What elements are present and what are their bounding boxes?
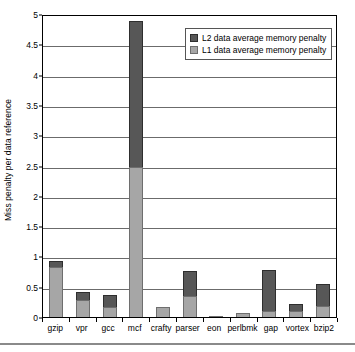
x-axis-tick-mark bbox=[257, 318, 258, 322]
bar-slot bbox=[123, 16, 150, 317]
x-axis-tick-mark bbox=[310, 318, 311, 322]
bar-segment-l2[interactable] bbox=[103, 295, 117, 308]
bar-segment-l1[interactable] bbox=[49, 267, 63, 317]
bar-slot bbox=[176, 16, 203, 317]
legend-swatch-l2-icon bbox=[190, 34, 198, 42]
legend-swatch-l1-icon bbox=[190, 46, 198, 54]
x-axis-tick-label: vortex bbox=[284, 323, 310, 337]
bar-slot bbox=[96, 16, 123, 317]
bar-slot bbox=[203, 16, 230, 317]
x-axis-tick-label: eon bbox=[201, 323, 227, 337]
x-axis-tick-label: crafty bbox=[148, 323, 174, 337]
y-axis-tick-label: 4.5 bbox=[26, 40, 38, 50]
x-axis-tick-mark bbox=[42, 318, 43, 322]
bar-bzip2[interactable] bbox=[316, 284, 330, 317]
x-axis-tick-labels: gzipvprgccmcfcraftyparsereonperlbmkgapvo… bbox=[42, 323, 337, 337]
x-axis-tick-label: perlbmk bbox=[227, 323, 257, 337]
bar-parser[interactable] bbox=[183, 271, 197, 317]
bar-gap[interactable] bbox=[262, 270, 276, 317]
legend-label-l1: L1 data average memory penalty bbox=[202, 45, 326, 55]
bar-segment-l1[interactable] bbox=[103, 307, 117, 317]
bar-eon[interactable] bbox=[209, 316, 223, 317]
y-axis-tick-label: 1.5 bbox=[26, 222, 38, 232]
bar-segment-l1[interactable] bbox=[262, 311, 276, 317]
bar-perlbmk[interactable] bbox=[236, 313, 250, 317]
bar-segment-l2[interactable] bbox=[183, 271, 197, 296]
bar-segment-l1[interactable] bbox=[236, 313, 250, 317]
x-axis-tick-mark bbox=[149, 318, 150, 322]
x-axis-tick-label: mcf bbox=[121, 323, 147, 337]
plot-area bbox=[42, 15, 337, 318]
x-axis-tick-label: vpr bbox=[68, 323, 94, 337]
y-axis-tick-labels: 00.511.522.533.544.55 bbox=[16, 15, 42, 318]
y-axis-title: Miss penalty per data reference bbox=[0, 0, 16, 320]
x-axis-tick-mark bbox=[337, 318, 338, 322]
legend-item: L1 data average memory penalty bbox=[190, 44, 326, 56]
x-axis-tick-mark bbox=[283, 318, 284, 322]
bar-crafty[interactable] bbox=[156, 307, 170, 317]
bar-mcf[interactable] bbox=[129, 21, 143, 317]
y-axis-title-text: Miss penalty per data reference bbox=[3, 99, 13, 221]
y-axis-tick-label: 0 bbox=[33, 313, 38, 323]
chart-legend: L2 data average memory penalty L1 data a… bbox=[185, 28, 332, 60]
x-axis-tick-label: gcc bbox=[95, 323, 121, 337]
x-axis-tick-mark bbox=[230, 318, 231, 322]
bar-gzip[interactable] bbox=[49, 261, 63, 317]
y-axis-tick-label: 3 bbox=[33, 131, 38, 141]
x-axis-tick-label: bzip2 bbox=[311, 323, 337, 337]
x-axis-tick-marks bbox=[42, 318, 337, 322]
x-axis-tick-mark bbox=[176, 318, 177, 322]
bar-slot bbox=[229, 16, 256, 317]
bar-segment-l2[interactable] bbox=[129, 21, 143, 167]
y-axis-tick-label: 2.5 bbox=[26, 162, 38, 172]
x-axis-tick-mark bbox=[96, 318, 97, 322]
bar-slot bbox=[150, 16, 177, 317]
bar-segment-l1[interactable] bbox=[183, 296, 197, 317]
y-axis-tick-label: 0.5 bbox=[26, 283, 38, 293]
bar-vortex[interactable] bbox=[289, 304, 303, 317]
x-axis-tick-label: parser bbox=[174, 323, 200, 337]
chart-figure: Miss penalty per data reference 00.511.5… bbox=[0, 0, 355, 352]
bar-slot bbox=[256, 16, 283, 317]
bar-series-group bbox=[43, 16, 336, 317]
bar-segment-l2[interactable] bbox=[316, 284, 330, 305]
bar-slot bbox=[70, 16, 97, 317]
bar-segment-l2[interactable] bbox=[289, 304, 303, 311]
bar-segment-l1[interactable] bbox=[289, 311, 303, 317]
y-axis-tick-label: 4 bbox=[33, 71, 38, 81]
bar-segment-l1[interactable] bbox=[156, 307, 170, 317]
bar-segment-l1[interactable] bbox=[209, 316, 223, 317]
bar-gcc[interactable] bbox=[103, 295, 117, 317]
legend-item: L2 data average memory penalty bbox=[190, 32, 326, 44]
y-axis-tick-label: 1 bbox=[33, 252, 38, 262]
y-axis-tick-label: 3.5 bbox=[26, 101, 38, 111]
bar-segment-l1[interactable] bbox=[129, 167, 143, 317]
y-axis-tick-label: 5 bbox=[33, 10, 38, 20]
page-divider bbox=[0, 343, 355, 345]
x-axis-tick-label: gzip bbox=[42, 323, 68, 337]
y-axis-tick-label: 2 bbox=[33, 192, 38, 202]
bar-segment-l2[interactable] bbox=[262, 270, 276, 311]
bar-slot bbox=[43, 16, 70, 317]
x-axis-tick-mark bbox=[122, 318, 123, 322]
bar-slot bbox=[283, 16, 310, 317]
legend-label-l2: L2 data average memory penalty bbox=[202, 33, 326, 43]
x-axis-tick-mark bbox=[69, 318, 70, 322]
bar-segment-l2[interactable] bbox=[76, 292, 90, 300]
bar-vpr[interactable] bbox=[76, 292, 90, 317]
bar-segment-l1[interactable] bbox=[316, 306, 330, 318]
bar-segment-l1[interactable] bbox=[76, 300, 90, 317]
bar-slot bbox=[309, 16, 336, 317]
x-axis-tick-mark bbox=[203, 318, 204, 322]
x-axis-tick-label: gap bbox=[258, 323, 284, 337]
